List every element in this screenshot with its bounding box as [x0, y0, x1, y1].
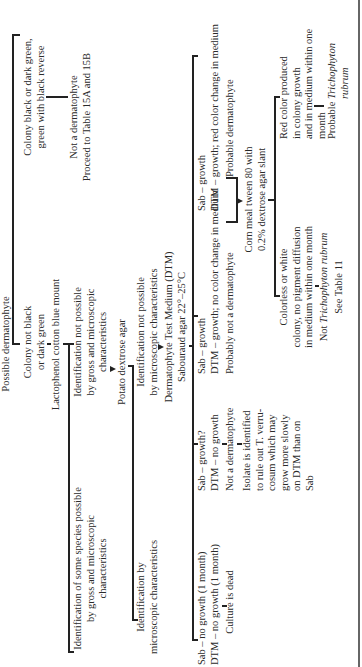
text-line: Colony black or dark green,	[22, 7, 35, 187]
text-line: Sabouraud agar 22°–25°C	[176, 247, 189, 407]
text-line: DTM – no growth (1 month)	[209, 544, 222, 665]
text-line: microscopic characteristics	[148, 527, 161, 667]
note-t-verrucosum: Isolate is identified to rule out T. ver…	[241, 409, 316, 491]
connector	[68, 343, 70, 653]
conclusion-not-dermatophyte: Not a dermatophyte	[224, 408, 237, 491]
text-line: cosum which may	[266, 409, 279, 491]
text-line: Identification not possible	[135, 257, 148, 407]
text-line: Proceed to Table 15A and 15B	[81, 22, 94, 212]
result-not-t-rubrum: Not Trichophyton rubrum	[318, 217, 331, 357]
connector	[274, 97, 276, 297]
step-corn-meal: Corn meal tween 80 with 0.2% dextrose ag…	[243, 132, 268, 267]
outcome-some-species-possible: Identification of some species possible …	[72, 476, 110, 661]
text-line: Not a dermatophyte	[68, 22, 81, 212]
text-line: DTM – growth; red color change in medium	[209, 24, 222, 211]
text-line: Colony not black	[22, 297, 35, 387]
connector	[192, 56, 194, 641]
step-dtm: Dermatophyte Test Medium (DTM) Sabouraud…	[163, 247, 188, 407]
text-line: and in medium within one	[303, 29, 316, 139]
text-line: by gross and microscopic	[85, 267, 98, 417]
text-line: Sab – growth	[196, 190, 209, 374]
conclusion-culture-dead: Culture is dead	[224, 557, 237, 647]
text-line: colony, no pigment diffusion	[291, 217, 304, 357]
text-line: Isolate is identified	[241, 409, 254, 491]
connector	[46, 96, 68, 98]
text-line: Corn meal tween 80 with	[243, 132, 256, 267]
text-line: Dermatophyte Test Medium (DTM)	[163, 247, 176, 407]
outcome-microscopic-possible: Identification by microscopic characteri…	[135, 527, 160, 667]
result-culture-dead: Sab – no growth (1 month) DTM – no growt…	[196, 544, 221, 665]
text-line: in colony growth	[291, 29, 304, 139]
text-line: Identification by	[135, 527, 148, 667]
condition-colony-black: Colony black or dark green, green with b…	[22, 7, 47, 187]
text-line: by microscopic characteristics	[148, 257, 161, 407]
text-line: or dark green	[35, 297, 48, 387]
condition-colorless-colony: Colorless or white colony, no pigment di…	[278, 217, 316, 357]
text-line: Sab – growth	[196, 24, 209, 211]
text-line: on DTM than on	[291, 409, 304, 491]
conclusion-probable-dermatophyte: Probable dermatophyte	[224, 79, 237, 177]
see-table-11: See Table 11	[333, 217, 346, 357]
connector	[132, 365, 134, 621]
text-line: Colorless or white	[278, 217, 291, 357]
text-line: 0.2% dextrose agar slant	[256, 132, 269, 267]
flowchart: Possible dermatophyte Colony black or da…	[0, 0, 362, 667]
connector	[226, 221, 236, 223]
result-no-color-change: Sab – growth DTM – growth; no color chan…	[196, 190, 221, 374]
text-line: Sab	[304, 409, 317, 491]
text-line: Sab – no growth (1 month)	[196, 544, 209, 665]
text-line: by gross and microscopic	[85, 476, 98, 661]
result-not-dermatophyte: Not a dermatophyte Proceed to Table 15A …	[68, 22, 93, 212]
outcome-not-possible-gross: Identification not possible by gross and…	[72, 267, 110, 417]
result-probable-t-rubrum: Probable Trichophyton rubrum	[326, 43, 351, 139]
connector	[12, 35, 14, 345]
condition-colony-not-black: Colony not black or dark green	[22, 297, 47, 387]
text-line: to rule out T. verru-	[254, 409, 267, 491]
text-line: Red color produced	[278, 29, 291, 139]
step-potato-dextrose: Potato dextrose agar	[116, 307, 129, 417]
step-lactophenol: Lactophenol cotton blue mount	[50, 267, 63, 422]
result-sab-growth-dtm-no-growth: Sab – growth? DTM – no growth	[196, 414, 221, 491]
connector	[12, 34, 20, 36]
connector	[314, 105, 324, 107]
text-line: grow more slowly	[279, 409, 292, 491]
text-line: Not	[318, 323, 329, 341]
species-name: Trichophyton	[326, 43, 337, 99]
text-line: characteristics	[97, 267, 110, 417]
species-name: rubrum	[339, 67, 350, 99]
outcome-microscopic-not-possible: Identification not possible by microscop…	[135, 257, 160, 407]
page-rule	[358, 0, 360, 667]
text-line: Sab – growth?	[196, 414, 209, 491]
text-line: DTM – no growth	[209, 414, 222, 491]
text-line: characteristics	[97, 476, 110, 661]
text-line: Identification not possible	[72, 267, 85, 417]
text-line: DTM – growth; no color change in medium	[209, 190, 222, 374]
condition-red-color: Red color produced in colony growth and …	[278, 29, 328, 139]
connector	[226, 177, 236, 179]
result-red-color-change: Sab – growth DTM – growth; red color cha…	[196, 24, 221, 211]
species-name: Trichophyton rubrum	[318, 233, 329, 323]
text-line: in medium within one month	[303, 217, 316, 357]
root-node: Possible dermatophyte	[0, 289, 13, 399]
text-line: Identification of some species possible	[72, 476, 85, 661]
conclusion-probably-not-dermatophyte: Probably not a dermatophyte	[224, 252, 237, 374]
text-line: Probable	[326, 99, 337, 139]
